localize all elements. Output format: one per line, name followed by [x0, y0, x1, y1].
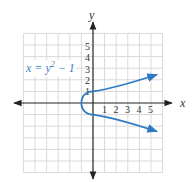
y-tick-2: 2: [85, 75, 90, 86]
y-tick-3: 3: [85, 64, 90, 75]
y-axis-label: y: [88, 8, 95, 22]
y-tick-5: 5: [85, 41, 90, 52]
y-tick-4: 4: [85, 52, 90, 63]
x-tick-labels: 1 2 3 4 5: [102, 104, 153, 115]
x-tick-1: 1: [102, 104, 107, 115]
x-tick-2: 2: [114, 104, 119, 115]
equation-label: x = y2 − 1: [25, 60, 75, 75]
x-tick-4: 4: [137, 104, 142, 115]
x-tick-5: 5: [148, 104, 153, 115]
x-axis-label: x: [179, 96, 186, 110]
y-tick-labels: 1 2 3 4 5: [85, 41, 90, 98]
x-tick-3: 3: [125, 104, 130, 115]
parabola-chart: x y 1 2 3 4 5 1 2 3 4 5 x = y2 − 1: [0, 0, 195, 183]
